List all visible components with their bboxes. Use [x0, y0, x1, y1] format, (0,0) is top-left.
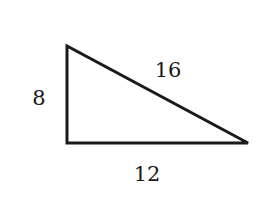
bottom-side-label: 12: [134, 162, 161, 186]
triangle-diagram: 8 16 12: [0, 0, 263, 210]
hypotenuse-label: 16: [155, 58, 182, 82]
left-side-label: 8: [32, 86, 45, 110]
triangle-svg: 8 16 12: [0, 0, 263, 210]
